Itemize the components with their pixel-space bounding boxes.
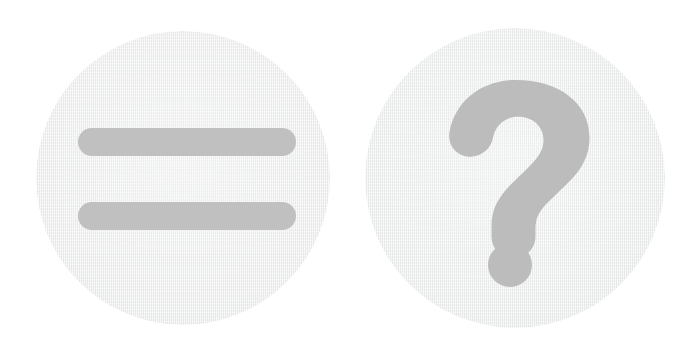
question-mark-hook [449, 80, 589, 258]
icon-canvas [0, 0, 694, 358]
equals-badge[interactable] [36, 31, 330, 325]
equals-bar-top [78, 128, 296, 156]
question-mark-icon [365, 28, 665, 328]
equals-icon [36, 31, 330, 325]
equals-bar-bottom [78, 202, 296, 230]
question-badge[interactable] [365, 28, 665, 328]
question-mark-dot [488, 243, 532, 287]
